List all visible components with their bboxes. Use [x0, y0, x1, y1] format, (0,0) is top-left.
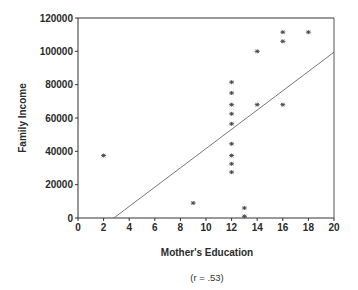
x-tick-label: 6: [152, 222, 158, 233]
data-point: [229, 91, 234, 95]
x-axis-label: Mother's Education: [161, 247, 253, 258]
x-tick-label: 2: [101, 222, 107, 233]
x-tick-label: 20: [328, 222, 340, 233]
y-ticks: 020000400006000080000100000120000: [40, 13, 78, 224]
x-tick-label: 10: [200, 222, 212, 233]
scatter-chart: 020000400006000080000100000120000 024681…: [0, 0, 358, 290]
y-tick-label: 20000: [45, 179, 73, 190]
x-tick-label: 18: [303, 222, 315, 233]
data-point: [255, 49, 260, 53]
x-tick-label: 16: [277, 222, 289, 233]
plot-frame: [78, 18, 334, 218]
correlation-annotation: (r = .53): [190, 272, 224, 283]
data-point: [280, 30, 285, 34]
x-tick-label: 0: [75, 222, 81, 233]
data-point: [255, 103, 260, 107]
x-tick-label: 4: [126, 222, 132, 233]
x-ticks: 02468101214161820: [75, 218, 340, 233]
data-point: [229, 170, 234, 174]
data-points: [101, 30, 311, 218]
data-point: [229, 142, 234, 146]
data-point: [242, 206, 247, 210]
data-point: [229, 103, 234, 107]
y-tick-label: 80000: [45, 79, 73, 90]
data-point: [229, 154, 234, 158]
y-tick-label: 40000: [45, 146, 73, 157]
y-tick-label: 60000: [45, 113, 73, 124]
data-point: [280, 39, 285, 43]
data-point: [306, 30, 311, 34]
fit-line: [114, 52, 334, 218]
data-point: [280, 103, 285, 107]
data-point: [229, 122, 234, 126]
x-tick-label: 8: [178, 222, 184, 233]
data-point: [101, 154, 106, 158]
x-tick-label: 12: [226, 222, 238, 233]
y-tick-label: 100000: [40, 46, 74, 57]
data-point: [191, 201, 196, 205]
data-point: [229, 162, 234, 166]
data-point: [229, 112, 234, 116]
x-tick-label: 14: [252, 222, 264, 233]
data-point: [229, 80, 234, 84]
y-tick-label: 120000: [40, 13, 74, 24]
y-tick-label: 0: [67, 213, 73, 224]
regression-line: [114, 52, 334, 218]
data-point: [242, 214, 247, 218]
y-axis-label: Family Income: [17, 83, 28, 153]
